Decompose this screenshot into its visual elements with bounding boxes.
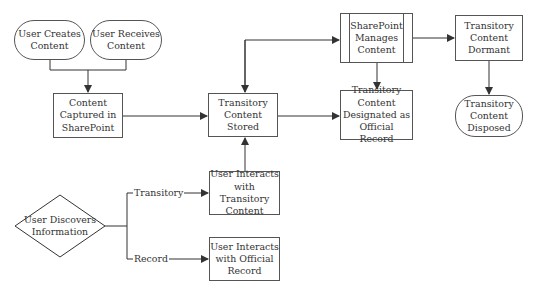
node-label: Transitory Content Designated as Officia… — [341, 84, 412, 145]
node-label: User Interacts with Official Record — [210, 241, 279, 278]
node-user-creates-content: User Creates Content — [14, 20, 85, 60]
node-label: Transitory Content Disposed — [456, 98, 522, 135]
node-sharepoint-manages-content: SharePoint Manages Content — [340, 13, 413, 63]
node-label: User Receives Content — [91, 28, 161, 53]
node-transitory-content-disposed: Transitory Content Disposed — [455, 95, 523, 137]
node-user-interacts-transitory: User Interacts with Transitory Content — [209, 171, 280, 215]
node-transitory-content-stored: Transitory Content Stored — [208, 93, 278, 137]
node-label: SharePoint Manages Content — [340, 20, 412, 57]
edge-label-transitory: Transitory — [133, 187, 184, 199]
node-label: Transitory Content Dormant — [456, 20, 522, 57]
node-label: User Discovers Information — [24, 214, 96, 237]
node-content-captured: Content Captured in SharePoint — [53, 93, 123, 138]
node-label: User Creates Content — [15, 28, 84, 53]
edge-label-record: Record — [133, 253, 169, 265]
node-user-discovers-information: User Discovers Information — [20, 214, 100, 239]
node-designated-official-record: Transitory Content Designated as Officia… — [340, 90, 413, 140]
node-transitory-content-dormant: Transitory Content Dormant — [455, 15, 523, 61]
node-user-interacts-record: User Interacts with Official Record — [209, 237, 280, 281]
node-label: User Interacts with Transitory Content — [210, 168, 279, 217]
node-user-receives-content: User Receives Content — [90, 20, 162, 60]
node-label: Content Captured in SharePoint — [54, 97, 122, 134]
node-label: Transitory Content Stored — [209, 97, 277, 134]
